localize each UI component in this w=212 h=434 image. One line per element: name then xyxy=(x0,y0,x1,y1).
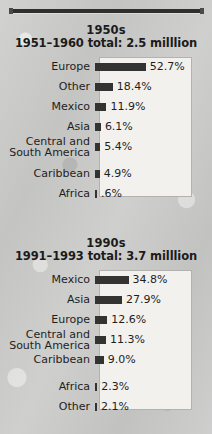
value-label: .6% xyxy=(101,187,122,200)
chart-1990s-total: 1991–1993 total: 3.7 milllion xyxy=(0,250,212,263)
chart-1990s: 1990s 1991–1993 total: 3.7 milllion Mexi… xyxy=(0,237,212,410)
bar-zone: 6.1% xyxy=(95,117,212,137)
category-label: Africa xyxy=(0,381,95,392)
top-rule-divider xyxy=(9,9,204,13)
bar xyxy=(95,190,97,198)
category-label: Europe xyxy=(0,61,95,72)
bar-zone: 52.7% xyxy=(95,57,212,77)
bar xyxy=(95,403,97,411)
value-label: 34.8% xyxy=(133,273,168,286)
chart-1990s-rows: Mexico34.8%Asia27.9%Europe12.6%Central a… xyxy=(0,270,212,410)
bar-row: Africa2.3% xyxy=(0,377,212,397)
category-label: Central and South America xyxy=(0,329,95,351)
bar xyxy=(95,356,104,364)
bar-row: Africa.6% xyxy=(0,184,212,204)
bar xyxy=(95,143,100,151)
bar-row: Central and South America5.4% xyxy=(0,137,212,157)
bar-zone: 34.8% xyxy=(95,270,212,290)
bar-row: Central and South America11.3% xyxy=(0,330,212,350)
bar xyxy=(95,83,113,91)
bar-zone: 2.1% xyxy=(95,397,212,417)
bar-zone: .6% xyxy=(95,184,212,204)
value-label: 4.9% xyxy=(104,167,132,180)
value-label: 27.9% xyxy=(126,293,161,306)
value-label: 5.4% xyxy=(104,140,132,153)
bar-row: Europe12.6% xyxy=(0,310,212,330)
category-label: Africa xyxy=(0,188,95,199)
value-label: 52.7% xyxy=(150,60,185,73)
bar xyxy=(95,123,101,131)
bar-row: Caribbean9.0% xyxy=(0,350,212,370)
bar-row: Mexico11.9% xyxy=(0,97,212,117)
chart-1950s-total: 1951–1960 total: 2.5 milllion xyxy=(0,37,212,50)
bar-row: Mexico34.8% xyxy=(0,270,212,290)
value-label: 6.1% xyxy=(105,120,133,133)
figure-page: 1950s 1951–1960 total: 2.5 milllion Euro… xyxy=(0,0,212,434)
chart-1950s-decade: 1950s xyxy=(0,24,212,37)
bar xyxy=(95,103,106,111)
chart-1950s: 1950s 1951–1960 total: 2.5 milllion Euro… xyxy=(0,24,212,197)
category-label: Other xyxy=(0,81,95,92)
value-label: 18.4% xyxy=(117,80,152,93)
value-label: 2.3% xyxy=(101,380,129,393)
bar-zone: 4.9% xyxy=(95,164,212,184)
category-label: Caribbean xyxy=(0,354,95,365)
bar-zone: 11.3% xyxy=(95,330,212,350)
bar xyxy=(95,336,106,344)
bar xyxy=(95,276,129,284)
chart-1990s-plot: Mexico34.8%Asia27.9%Europe12.6%Central a… xyxy=(0,270,212,410)
bar xyxy=(95,63,146,71)
bar xyxy=(95,316,107,324)
chart-1950s-rows: Europe52.7%Other18.4%Mexico11.9%Asia6.1%… xyxy=(0,57,212,197)
bar-zone: 27.9% xyxy=(95,290,212,310)
bar-row: Asia27.9% xyxy=(0,290,212,310)
value-label: 11.3% xyxy=(110,333,145,346)
chart-1950s-plot: Europe52.7%Other18.4%Mexico11.9%Asia6.1%… xyxy=(0,57,212,197)
value-label: 2.1% xyxy=(101,400,129,413)
category-label: Europe xyxy=(0,314,95,325)
bar-zone: 11.9% xyxy=(95,97,212,117)
bar-zone: 12.6% xyxy=(95,310,212,330)
bar-row: Caribbean4.9% xyxy=(0,164,212,184)
category-label: Mexico xyxy=(0,101,95,112)
bar-zone: 5.4% xyxy=(95,137,212,157)
category-label: Central and South America xyxy=(0,136,95,158)
value-label: 12.6% xyxy=(111,313,146,326)
bar-zone: 2.3% xyxy=(95,377,212,397)
bar xyxy=(95,383,97,391)
bar-zone: 18.4% xyxy=(95,77,212,97)
category-label: Asia xyxy=(0,121,95,132)
bar xyxy=(95,296,122,304)
category-label: Other xyxy=(0,401,95,412)
top-rule-left-cap xyxy=(9,8,13,14)
category-label: Asia xyxy=(0,294,95,305)
bar-row: Asia6.1% xyxy=(0,117,212,137)
value-label: 11.9% xyxy=(110,100,145,113)
bar-row: Other2.1% xyxy=(0,397,212,417)
bar-row: Europe52.7% xyxy=(0,57,212,77)
category-label: Caribbean xyxy=(0,168,95,179)
category-label: Mexico xyxy=(0,274,95,285)
chart-1990s-decade: 1990s xyxy=(0,237,212,250)
chart-1950s-title: 1950s 1951–1960 total: 2.5 milllion xyxy=(0,24,212,50)
bar-zone: 9.0% xyxy=(95,350,212,370)
bar-row: Other18.4% xyxy=(0,77,212,97)
value-label: 9.0% xyxy=(108,353,136,366)
chart-1990s-title: 1990s 1991–1993 total: 3.7 milllion xyxy=(0,237,212,263)
bar xyxy=(95,170,100,178)
top-rule-right-cap xyxy=(200,8,204,14)
